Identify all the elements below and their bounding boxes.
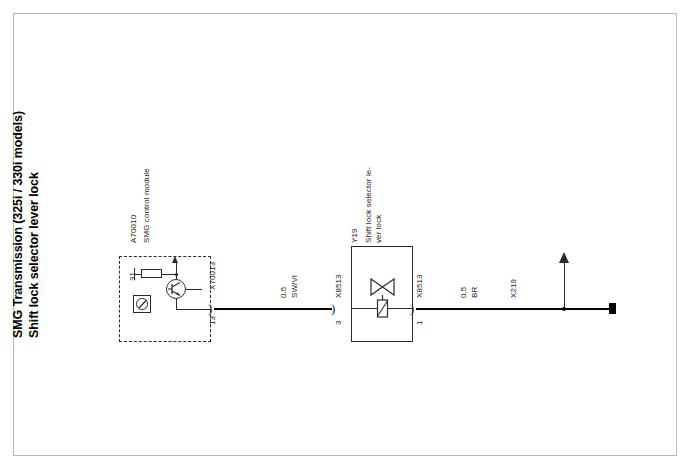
wire-end-terminal — [609, 303, 616, 314]
wire-ground-color-label: BR — [470, 287, 480, 298]
connector-x70013-label: X70013 — [208, 262, 218, 290]
wire-signal-color-label: SW/VI — [290, 275, 300, 298]
transistor-base-lead — [186, 289, 202, 290]
ecu-internal-wire-left — [134, 274, 141, 275]
wire-ground-segment — [416, 308, 610, 311]
transistor-emitter-run — [176, 309, 211, 310]
connector-x8513-in-label: X8513 — [334, 274, 344, 298]
ecu-internal-wire-mid — [162, 274, 176, 275]
ground-point-label: X219 — [509, 279, 519, 298]
resistor-symbol — [141, 269, 162, 278]
wire-signal-segment — [214, 308, 332, 311]
page-title-line-1: SMG Transmission (325i / 330i models) — [10, 28, 26, 338]
solenoid-valve-symbol — [366, 277, 400, 317]
transistor-inner-glyph — [166, 279, 186, 299]
component-symbol-slash — [134, 296, 152, 314]
diagram-sheet: SMG Transmission (325i / 330i models) Sh… — [0, 0, 690, 473]
page-title: SMG Transmission (325i / 330i models) Sh… — [10, 28, 54, 338]
ground-riser-line — [564, 262, 566, 308]
ecu-name-label: SMG control module — [142, 168, 152, 243]
wire-signal-size-label: 0.5 — [279, 287, 289, 298]
connector-x70013-pin-label: 13 — [208, 316, 218, 325]
connector-x8513-out-pin-label: 1 — [415, 320, 425, 325]
connector-x8513-in-pin-label: 3 — [334, 320, 344, 325]
connector-x8513-out-glyph: ) — [410, 302, 414, 315]
up-arrow-icon-supply — [172, 256, 178, 263]
device-name-line-2: ver lock — [374, 215, 384, 243]
ecu-supply-stub — [176, 262, 177, 274]
component-symbol — [133, 295, 151, 313]
page-title-line-2: Shift lock selector lever lock — [26, 28, 42, 338]
device-id-label: Y19 — [350, 228, 360, 243]
connector-x8513-out-label: X8513 — [415, 274, 425, 298]
page-border — [13, 13, 677, 456]
connector-x70013-glyph: ) — [208, 302, 212, 315]
device-name-line-1: Shift lock selector le- — [364, 167, 374, 243]
connector-x8513-in-glyph: ) — [331, 302, 335, 315]
wire-ground-size-label: 0.5 — [459, 287, 469, 298]
ecu-id-label: A70010 — [129, 215, 139, 243]
up-arrow-icon-ground — [559, 252, 569, 263]
